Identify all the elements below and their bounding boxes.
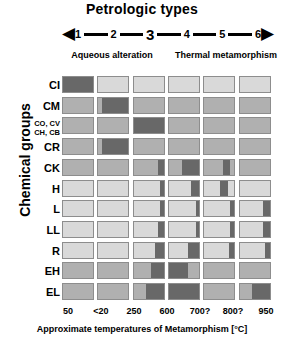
heatmap-cell [133,221,165,238]
row-label-column: CICMCO, CVCH, CBCRCKHLLLREHEL [20,76,60,304]
row-label-line: EL [20,287,60,298]
heatmap-grid [62,76,274,304]
row-label-l: L [20,204,60,215]
x-tick-label: 50 [63,306,73,316]
cell-fill-segment [230,222,234,237]
heatmap-cell [168,117,200,134]
cell-fill-segment [229,243,234,258]
heatmap-cell [239,200,271,217]
heatmap-cell [62,262,94,279]
heatmap-cell [239,76,271,93]
cell-fill-segment [182,160,199,175]
x-tick-label: 800? [223,306,244,316]
cell-fill-segment [134,118,164,133]
heatmap-cell [133,97,165,114]
process-subtitles: Aqueous alteration Thermal metamorphism [62,50,274,64]
row-label-ll: LL [20,225,60,236]
heatmap-cell [168,76,200,93]
heatmap-row [62,138,274,159]
row-label-cm: CM [20,101,60,112]
heatmap-cell [168,283,200,300]
cell-fill-segment [155,243,164,258]
heatmap-cell [203,138,235,155]
label-thermal-metamorphism: Thermal metamorphism [166,50,284,60]
cell-fill-segment [169,284,199,299]
row-label-line: EH [20,266,60,277]
heatmap-cell [62,242,94,259]
scale-dash [84,33,107,36]
heatmap-cell [62,97,94,114]
label-aqueous-alteration: Aqueous alteration [58,50,166,60]
heatmap-row [62,97,274,118]
heatmap-cell [203,242,235,259]
heatmap-cell [133,180,165,197]
cell-fill-segment [265,243,270,258]
scale-dash [120,33,143,36]
heatmap-cell [62,159,94,176]
heatmap-cell [62,200,94,217]
row-label-line: LL [20,225,60,236]
heatmap-cell [62,283,94,300]
heatmap-cell [97,76,129,93]
x-tick-label: 950 [258,306,273,316]
row-label-ci: CI [20,80,60,91]
cell-fill-segment [252,284,270,299]
row-label-line: CI [20,80,60,91]
heatmap-cell [239,97,271,114]
cell-fill-segment [158,160,163,175]
heatmap-cell [97,97,129,114]
cell-fill-segment [169,263,188,278]
cell-fill-segment [196,201,199,216]
heatmap-cell [168,180,200,197]
heatmap-cell [133,262,165,279]
heatmap-cell [168,221,200,238]
row-label-line: CM [20,101,60,112]
row-label-el: EL [20,287,60,298]
heatmap-cell [168,97,200,114]
heatmap-cell [97,180,129,197]
x-tick-label: <20 [93,306,108,316]
row-label-h: H [20,184,60,195]
heatmap-row [62,117,274,138]
heatmap-cell [133,76,165,93]
petrologic-type-5: 5 [219,28,225,40]
row-label-line: R [20,246,60,257]
heatmap-cell [62,76,94,93]
heatmap-cell [203,76,235,93]
heatmap-cell [239,159,271,176]
cell-fill-segment [223,160,230,175]
scale-dash [228,33,251,36]
heatmap-row [62,283,274,304]
heatmap-cell [97,200,129,217]
petrologic-type-scale: ◀123456▶ [62,24,274,44]
heatmap-cell [203,97,235,114]
row-label-co-cv-ch-cb: CO, CVCH, CB [20,119,60,138]
row-label-eh: EH [20,266,60,277]
page-title: Petrologic types [0,1,284,17]
heatmap-cell [133,283,165,300]
heatmap-cell [203,283,235,300]
heatmap-row [62,76,274,97]
cell-fill-segment [151,263,164,278]
heatmap-cell [239,180,271,197]
heatmap-cell [133,242,165,259]
heatmap-cell [168,262,200,279]
heatmap-cell [62,138,94,155]
right-arrow-icon: ▶ [261,25,274,42]
row-label-cr: CR [20,142,60,153]
row-label-ck: CK [20,163,60,174]
row-label-line: CO, CV [20,119,60,128]
heatmap-cell [97,283,129,300]
heatmap-cell [168,200,200,217]
heatmap-cell [203,117,235,134]
cell-fill-segment [220,181,228,196]
x-axis-label: Approximate temperatures of Metamorphism… [0,324,284,334]
cell-fill-segment [63,77,93,92]
heatmap-cell [97,159,129,176]
heatmap-cell [168,138,200,155]
heatmap-cell [239,117,271,134]
heatmap-row [62,262,274,283]
heatmap-cell [239,138,271,155]
petrologic-type-2: 2 [111,28,117,40]
x-tick-label: 250 [126,306,141,316]
